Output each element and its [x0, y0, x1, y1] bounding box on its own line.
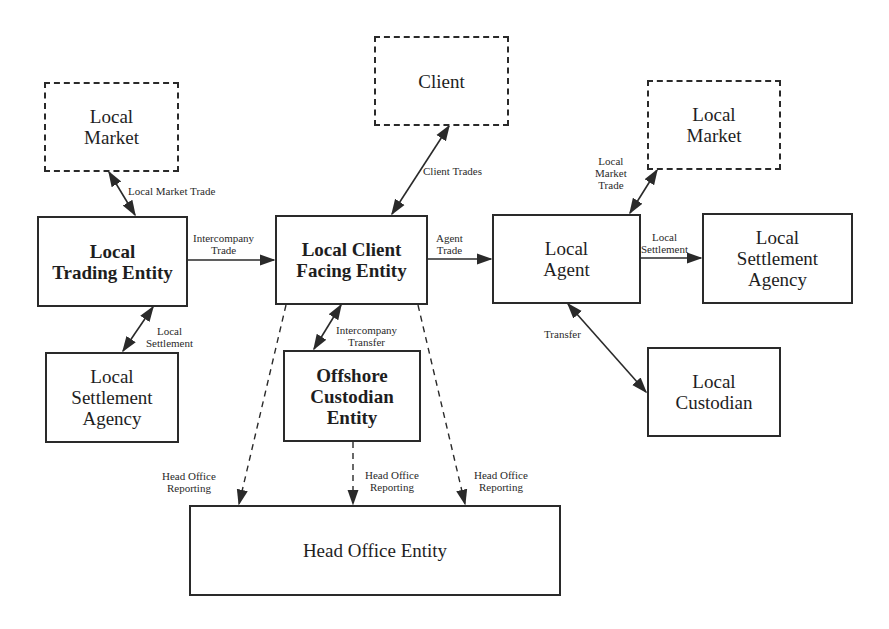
edge-label-local-market-trade-right: Local Market Trade	[595, 155, 627, 191]
node-label: Local Client Facing Entity	[296, 239, 406, 281]
node-label: Offshore Custodian Entity	[310, 365, 393, 428]
edge-label-client-trades: Client Trades	[423, 165, 482, 177]
diagram-canvas: Local Market Client Local Market Local T…	[0, 0, 889, 629]
edge-local-market-trade-right	[630, 170, 657, 213]
node-local-market-left: Local Market	[44, 82, 179, 172]
node-local-client-facing-entity: Local Client Facing Entity	[275, 215, 428, 305]
edge-label-agent-trade: Agent Trade	[436, 232, 463, 256]
edge-label-head-office-reporting-left: Head Office Reporting	[162, 470, 216, 494]
node-label: Local Settlement Agency	[71, 366, 152, 429]
edge-label-head-office-reporting-right: Head Office Reporting	[474, 469, 528, 493]
node-label: Local Market	[84, 106, 139, 148]
node-label: Local Trading Entity	[52, 241, 173, 283]
edge-head-office-reporting-left	[239, 305, 286, 504]
node-local-custodian: Local Custodian	[647, 347, 781, 437]
edge-label-intercompany-transfer: Intercompany Transfer	[336, 324, 397, 348]
node-label: Local Custodian	[675, 371, 752, 413]
edge-label-head-office-reporting-middle: Head Office Reporting	[365, 469, 419, 493]
edge-label-local-settlement-right: Local Settlement	[641, 231, 688, 255]
node-offshore-custodian-entity: Offshore Custodian Entity	[283, 350, 421, 442]
node-label: Local Market	[687, 104, 742, 146]
edge-head-office-reporting-right	[418, 305, 465, 504]
node-label: Head Office Entity	[303, 540, 447, 561]
node-label: Client	[418, 71, 464, 92]
node-local-settlement-agency-left: Local Settlement Agency	[45, 352, 179, 443]
node-client: Client	[374, 36, 509, 126]
node-label: Local Agent	[543, 238, 589, 280]
node-local-agent: Local Agent	[492, 214, 641, 304]
node-head-office-entity: Head Office Entity	[189, 505, 561, 596]
node-local-settlement-agency-right: Local Settlement Agency	[702, 213, 853, 304]
node-local-market-right: Local Market	[647, 80, 781, 170]
node-label: Local Settlement Agency	[737, 227, 818, 290]
edge-transfer	[568, 304, 646, 392]
edge-label-transfer: Transfer	[544, 328, 581, 340]
edge-label-local-market-trade-left: Local Market Trade	[128, 185, 215, 197]
node-local-trading-entity: Local Trading Entity	[37, 216, 188, 307]
edge-label-local-settlement-left: Local Settlement	[146, 325, 193, 349]
edge-label-intercompany-trade: Intercompany Trade	[193, 232, 254, 256]
